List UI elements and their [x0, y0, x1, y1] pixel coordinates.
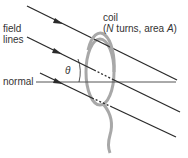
field-lines-label: field lines — [3, 23, 24, 45]
paren: ) — [174, 23, 177, 34]
label-line: coil — [103, 12, 177, 23]
label-line: field — [3, 23, 24, 34]
coil — [86, 39, 114, 153]
field-line-3 — [40, 73, 176, 137]
coil-label: coil (N turns, area A) — [103, 12, 177, 34]
label-line: (N turns, area A) — [103, 23, 177, 34]
field-line-2 — [27, 37, 180, 112]
arrow-icon — [52, 48, 62, 54]
label-line: lines — [3, 34, 24, 45]
symbol-n: N — [106, 23, 113, 34]
arrow-icon — [53, 78, 63, 84]
normal-label: normal — [3, 76, 34, 87]
theta-label: θ — [65, 65, 70, 76]
symbol-a: A — [167, 23, 174, 34]
text: turns, area — [114, 23, 167, 34]
